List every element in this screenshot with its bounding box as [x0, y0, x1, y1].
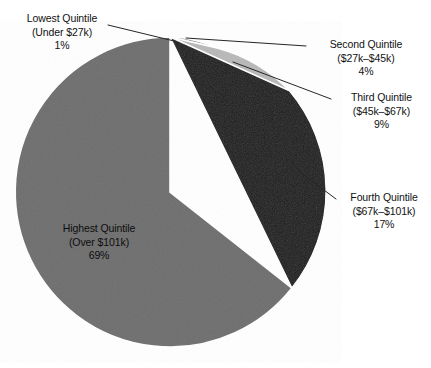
slice-label-highest-quintile: Highest Quintile (Over $101k) 69%	[44, 222, 154, 263]
slice-label-percent: 4%	[307, 65, 425, 79]
slice-label-percent: 69%	[44, 249, 154, 263]
slice-label-range: ($45k–$67k)	[332, 105, 431, 119]
slice-label-lowest-quintile: Lowest Quintile (Under $27k) 1%	[8, 12, 116, 53]
slice-label-name: Third Quintile	[332, 91, 431, 105]
slice-label-range: ($27k–$45k)	[307, 52, 425, 66]
slice-label-second-quintile: Second Quintile ($27k–$45k) 4%	[307, 38, 425, 79]
slice-label-third-quintile: Third Quintile ($45k–$67k) 9%	[332, 91, 431, 132]
slice-label-name: Fourth Quintile	[337, 191, 431, 205]
leader-line-lowest-quintile	[108, 25, 174, 41]
slice-label-percent: 9%	[332, 118, 431, 132]
slice-label-percent: 17%	[337, 218, 431, 232]
slice-label-range: (Under $27k)	[8, 26, 116, 40]
slice-label-name: Lowest Quintile	[8, 12, 116, 26]
slice-label-name: Highest Quintile	[44, 222, 154, 236]
pie-slices	[15, 37, 326, 347]
slice-label-range: (Over $101k)	[44, 236, 154, 250]
slice-label-fourth-quintile: Fourth Quintile ($67k–$101k) 17%	[337, 191, 431, 232]
slice-label-range: ($67k–$101k)	[337, 205, 431, 219]
slice-label-name: Second Quintile	[307, 38, 425, 52]
slice-label-percent: 1%	[8, 39, 116, 53]
pie-chart-figure: Lowest Quintile (Under $27k) 1% Second Q…	[0, 0, 431, 368]
